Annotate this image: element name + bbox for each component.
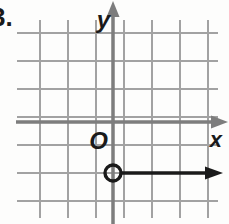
origin-label: O [89, 127, 108, 154]
y-axis-label: y [96, 6, 112, 33]
coordinate-plane-svg: y x O 3. [0, 0, 229, 224]
problem-number: 3. [0, 2, 13, 32]
coordinate-grid-figure: y x O 3. [0, 0, 229, 224]
x-axis-label: x [209, 127, 223, 152]
